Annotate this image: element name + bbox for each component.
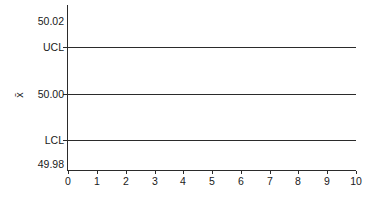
y-axis-tick-label: LCL bbox=[4, 135, 64, 146]
x-tick-mark bbox=[68, 171, 69, 174]
x-tick-mark bbox=[356, 171, 357, 174]
x-tick-mark bbox=[126, 171, 127, 174]
x-axis-tick-label: 1 bbox=[85, 175, 109, 187]
x-axis-tick-label: 4 bbox=[171, 175, 195, 187]
x-tick-mark bbox=[97, 171, 98, 174]
x-axis-tick-label: 9 bbox=[315, 175, 339, 187]
x-axis-tick-label: 0 bbox=[56, 175, 80, 187]
x-axis-tick-label: 7 bbox=[258, 175, 282, 187]
xbar-control-chart: x̄ 50.02UCL50.00LCL49.98012345678910 bbox=[0, 0, 374, 200]
x-tick-mark bbox=[241, 171, 242, 174]
x-tick-mark bbox=[270, 171, 271, 174]
center-line bbox=[68, 94, 356, 95]
plot-area bbox=[68, 5, 356, 170]
x-axis-tick-label: 8 bbox=[286, 175, 310, 187]
x-axis-tick-label: 5 bbox=[200, 175, 224, 187]
lcl-line bbox=[68, 140, 356, 141]
x-tick-mark bbox=[298, 171, 299, 174]
x-tick-mark bbox=[327, 171, 328, 174]
x-tick-mark bbox=[183, 171, 184, 174]
y-axis-line bbox=[67, 5, 68, 171]
x-tick-mark bbox=[155, 171, 156, 174]
y-axis-tick-label: 50.00 bbox=[4, 89, 64, 100]
y-axis-tick-label: 49.98 bbox=[4, 159, 64, 170]
y-axis-tick-label: UCL bbox=[4, 42, 64, 53]
y-axis-tick-label: 50.02 bbox=[4, 16, 64, 27]
ucl-line bbox=[68, 47, 356, 48]
x-axis-tick-label: 3 bbox=[143, 175, 167, 187]
x-tick-mark bbox=[212, 171, 213, 174]
x-axis-tick-label: 10 bbox=[344, 175, 368, 187]
x-axis-tick-label: 6 bbox=[229, 175, 253, 187]
x-axis-tick-label: 2 bbox=[114, 175, 138, 187]
